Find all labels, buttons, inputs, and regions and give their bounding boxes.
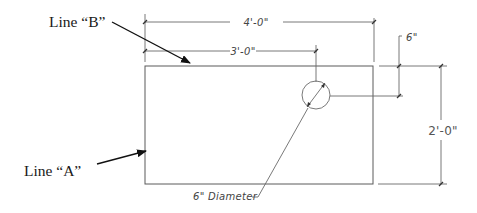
line-a-label: Line “A” <box>24 162 81 179</box>
plate-rectangle <box>145 66 373 184</box>
dimension-hole-offset-x-label: 3'-0" <box>230 46 255 57</box>
callout-line-a: Line “A” <box>24 151 146 179</box>
line-b-label: Line “B” <box>49 13 105 30</box>
dimension-hole-offset-x: 3'-0" <box>143 45 318 82</box>
hole-note: 6" Diameter <box>193 108 308 202</box>
dimension-hole-offset-y-label: 6" <box>406 32 418 43</box>
dimension-hole-offset-y: 6" <box>330 32 447 98</box>
drawing-canvas: 4'-0" 3'-0" 6" 2'-0" 6" Diameter Line “B <box>0 0 477 213</box>
hole-circle <box>302 81 330 109</box>
dimension-overall-height-label: 2'-0" <box>428 124 457 138</box>
dimension-overall-width-label: 4'-0" <box>243 17 268 28</box>
dimension-overall-width: 4'-0" <box>143 14 376 62</box>
callout-line-b: Line “B” <box>49 13 190 63</box>
hole-note-label: 6" Diameter <box>193 191 258 202</box>
dimension-overall-height: 2'-0" <box>378 64 458 186</box>
